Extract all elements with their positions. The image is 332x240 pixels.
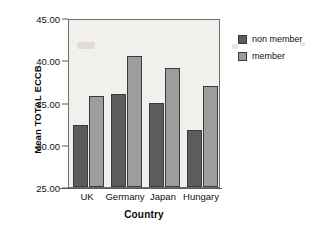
legend-item-member[interactable]: member xyxy=(238,51,330,61)
y-tick-mark xyxy=(62,103,68,104)
bar-uk-member xyxy=(89,96,104,187)
legend-label: member xyxy=(252,51,285,61)
y-tick-mark xyxy=(62,145,68,146)
bar-hungary-member xyxy=(203,86,218,187)
legend-swatch-icon xyxy=(238,52,247,61)
y-tick-label: 35.00 xyxy=(16,98,60,109)
y-tick-label: 30.00 xyxy=(16,140,60,151)
x-axis-line xyxy=(60,188,222,189)
bar-japan-member xyxy=(165,68,180,187)
bar-japan-non-member xyxy=(149,103,164,188)
y-tick-mark xyxy=(62,19,68,20)
bar-chart: Mean TOTAL ECCB 25.0030.0035.0040.0045.0… xyxy=(0,0,332,240)
bar-hungary-non-member xyxy=(187,130,202,187)
legend: non membermember xyxy=(238,34,330,68)
y-tick-label: 25.00 xyxy=(16,183,60,194)
x-axis-tick-labels: UKGermanyJapanHungary xyxy=(60,191,230,207)
scan-artifact xyxy=(232,44,238,49)
plot-area xyxy=(68,19,220,188)
legend-swatch-icon xyxy=(238,35,247,44)
legend-label: non member xyxy=(252,34,303,44)
scan-artifact xyxy=(300,42,305,46)
legend-item-non-member[interactable]: non member xyxy=(238,34,330,44)
bar-uk-non-member xyxy=(73,125,88,187)
y-tick-mark xyxy=(62,188,68,189)
x-tick-label: Japan xyxy=(150,191,176,202)
y-axis-tick-labels: 25.0030.0035.0040.0045.00 xyxy=(16,0,60,240)
y-tick-label: 45.00 xyxy=(16,14,60,25)
x-axis-title: Country xyxy=(68,209,220,220)
y-tick-label: 40.00 xyxy=(16,56,60,67)
bar-germany-member xyxy=(127,56,142,187)
x-tick-label: Hungary xyxy=(183,191,219,202)
x-tick-label: UK xyxy=(80,191,93,202)
bar-germany-non-member xyxy=(111,94,126,187)
y-tick-mark xyxy=(62,61,68,62)
x-tick-label: Germany xyxy=(105,191,144,202)
bars-layer xyxy=(69,20,219,187)
